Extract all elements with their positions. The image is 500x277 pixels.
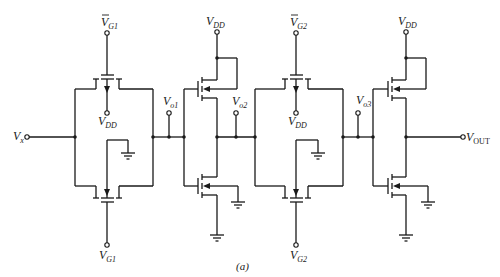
- vout-terminal: [461, 135, 465, 139]
- vo2-terminal: [234, 111, 238, 115]
- label-vg1: VG1: [99, 248, 116, 264]
- vg1-terminal: [105, 243, 109, 247]
- ground-icon: [231, 202, 245, 208]
- vdd-terminal-4: [404, 30, 408, 34]
- vg2-bar-terminal: [294, 31, 298, 35]
- transmission-gate-1: [25, 31, 155, 247]
- vg1-bar-terminal: [105, 31, 109, 35]
- circuit-diagram: VG1 VDD VG1 VDD Vo1 Vo2 VG2 VDD VG2 Vo3 …: [0, 0, 500, 277]
- vdd-terminal-1: [105, 111, 109, 115]
- label-vdd-2: VDD: [206, 14, 225, 30]
- vx-terminal: [25, 135, 29, 139]
- vg2-terminal: [294, 243, 298, 247]
- ground-icon: [311, 153, 325, 159]
- label-vo1: Vo1: [163, 94, 178, 110]
- label-vo3: Vo3: [356, 93, 371, 109]
- label-vdd-3: VDD: [288, 114, 307, 130]
- svg-text:VG2: VG2: [290, 15, 307, 31]
- vdd-terminal-2: [215, 30, 219, 34]
- transmission-gate-2: [255, 31, 343, 247]
- label-vg2-bar: VG2: [290, 15, 307, 31]
- label-vx: Vx: [13, 129, 24, 145]
- label-vg1-bar: VG1: [101, 15, 118, 31]
- inverter-2: [373, 30, 465, 241]
- label-vdd-4: VDD: [398, 14, 417, 30]
- svg-text:VG1: VG1: [101, 15, 118, 31]
- figure-caption: (a): [236, 260, 249, 273]
- ground-icon: [121, 153, 135, 159]
- label-vo2: Vo2: [232, 94, 247, 110]
- label-vout: VOUT: [466, 130, 490, 146]
- ground-icon: [399, 235, 413, 241]
- ground-icon: [421, 202, 435, 208]
- label-vg2: VG2: [290, 248, 307, 264]
- vo3-terminal: [356, 111, 360, 115]
- ground-icon: [210, 235, 224, 241]
- label-vdd-1: VDD: [98, 114, 117, 130]
- vo1-terminal: [167, 111, 171, 115]
